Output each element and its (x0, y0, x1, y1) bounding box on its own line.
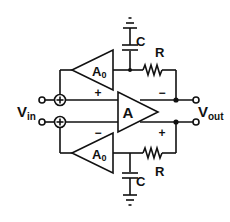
input-terminal-top (39, 97, 45, 103)
input-label: Vin (17, 103, 36, 122)
top-resistor-label: R (155, 45, 165, 60)
top-capacitor-label: C (136, 34, 146, 49)
top-resistor (143, 65, 162, 75)
main-amp-top-output-sign: − (158, 86, 165, 100)
bottom-resistor-label: R (155, 164, 165, 179)
main-amp-bottom-input-sign: − (94, 126, 101, 140)
main-amp-top-input-sign: + (94, 86, 101, 100)
bottom-capacitor-label: C (136, 174, 146, 189)
input-terminal-bottom (39, 119, 45, 125)
main-amp-bottom-output-sign: + (158, 126, 165, 140)
bottom-resistor (143, 148, 162, 158)
summer-bottom (55, 117, 66, 128)
summer-top (55, 95, 66, 106)
bottom-ground-icon (123, 195, 137, 205)
output-label: Vout (198, 103, 224, 122)
circuit-diagram: Vin Vout A + − − + A0 A0 C R C R (0, 0, 230, 222)
top-ground-icon (123, 18, 137, 28)
main-amplifier-label: A (123, 104, 134, 121)
